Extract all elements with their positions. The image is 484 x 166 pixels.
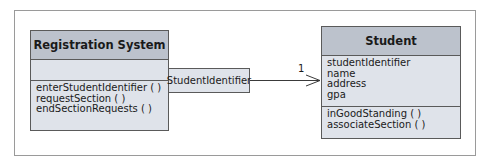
multiplicity-label: 1 — [298, 63, 304, 74]
attribute: gpa — [327, 90, 460, 101]
operation: inGoodStanding ( ) — [327, 109, 460, 120]
class-student: Student studentIdentifier name address g… — [321, 26, 461, 139]
class-name: Student — [322, 27, 460, 56]
operation: associateSection ( ) — [327, 120, 460, 131]
attribute: address — [327, 79, 460, 90]
operations-section: inGoodStanding ( ) associateSection ( ) — [322, 107, 460, 130]
attributes-section: studentIdentifier name address gpa — [322, 56, 460, 107]
attribute: studentIdentifier — [327, 58, 460, 69]
